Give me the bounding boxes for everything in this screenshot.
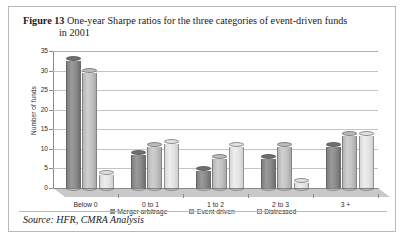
y-axis-tick-mark bbox=[49, 149, 53, 150]
y-axis-tick-label: 5 bbox=[22, 165, 48, 172]
figure-caption: Figure 13 One-year Sharpe ratios for the… bbox=[23, 15, 381, 40]
source-note: Source: HFR, CMRA Analysis bbox=[23, 214, 144, 225]
bar-body bbox=[326, 147, 341, 188]
bar-top-ellipse bbox=[164, 139, 179, 144]
bar bbox=[277, 145, 292, 188]
bar bbox=[261, 157, 276, 188]
y-axis-tick-mark bbox=[49, 71, 53, 72]
gridline bbox=[53, 71, 378, 72]
source-divider-bottom bbox=[19, 231, 387, 232]
plot-area: 05101520253035 Below 00 to 11 to 22 to 3… bbox=[53, 51, 378, 188]
bar-top-ellipse bbox=[196, 166, 211, 171]
y-axis-tick-mark bbox=[49, 129, 53, 130]
y-axis-tick-mark bbox=[49, 188, 53, 189]
gridline bbox=[53, 90, 378, 91]
bar-body bbox=[99, 175, 114, 188]
bar-top-ellipse bbox=[359, 131, 374, 136]
figure-frame: Figure 13 One-year Sharpe ratios for the… bbox=[8, 6, 396, 232]
y-axis-tick-mark bbox=[49, 110, 53, 111]
bar-body bbox=[229, 147, 244, 188]
figure-caption-line2: in 2001 bbox=[59, 27, 381, 39]
bar bbox=[82, 71, 97, 188]
bar-body bbox=[277, 147, 292, 188]
bar bbox=[359, 133, 374, 188]
y-axis-tick-mark bbox=[49, 168, 53, 169]
gridline bbox=[53, 51, 378, 52]
bar-top-ellipse bbox=[294, 178, 309, 183]
bar-body bbox=[359, 136, 374, 188]
x-axis-tick-mark bbox=[313, 194, 314, 198]
figure-number: Figure 13 bbox=[23, 15, 64, 26]
bar bbox=[131, 153, 146, 188]
bar-body bbox=[196, 171, 211, 188]
chart: Number of funds 05101520253035 Below 00 … bbox=[19, 45, 387, 217]
x-axis-tick-mark bbox=[118, 194, 119, 198]
bar bbox=[196, 168, 211, 188]
y-axis-tick-label: 0 bbox=[22, 184, 48, 191]
bar-body bbox=[164, 144, 179, 188]
bar bbox=[212, 157, 227, 188]
y-axis-tick-label: 30 bbox=[22, 67, 48, 74]
bar bbox=[164, 141, 179, 188]
bar-body bbox=[131, 155, 146, 188]
bar-body bbox=[82, 73, 97, 188]
y-axis-tick-label: 20 bbox=[22, 106, 48, 113]
bar-body bbox=[294, 183, 309, 188]
gridline bbox=[53, 129, 378, 130]
bar-body bbox=[212, 159, 227, 188]
bar-top-ellipse bbox=[342, 131, 357, 136]
y-axis-tick-label: 35 bbox=[22, 47, 48, 54]
y-axis-tick-label: 15 bbox=[22, 126, 48, 133]
x-axis-tick-mark bbox=[183, 194, 184, 198]
bar-body bbox=[147, 147, 162, 188]
gridline bbox=[53, 110, 378, 111]
bar bbox=[294, 180, 309, 188]
source-divider-top bbox=[19, 211, 387, 212]
bar bbox=[99, 172, 114, 188]
y-axis-tick-label: 10 bbox=[22, 145, 48, 152]
bar bbox=[326, 145, 341, 188]
figure-caption-line1: One-year Sharpe ratios for the three cat… bbox=[67, 15, 347, 26]
x-axis-tick-mark bbox=[248, 194, 249, 198]
bar-body bbox=[261, 159, 276, 188]
bar bbox=[147, 145, 162, 188]
y-axis-tick-mark bbox=[49, 51, 53, 52]
bar-top-ellipse bbox=[99, 170, 114, 175]
bar bbox=[66, 59, 81, 188]
bar bbox=[229, 145, 244, 188]
bar-body bbox=[66, 61, 81, 188]
y-axis-tick-mark bbox=[49, 90, 53, 91]
x-axis-tick-mark bbox=[378, 194, 379, 198]
y-axis-tick-label: 25 bbox=[22, 87, 48, 94]
bar-body bbox=[342, 136, 357, 188]
bar bbox=[342, 133, 357, 188]
